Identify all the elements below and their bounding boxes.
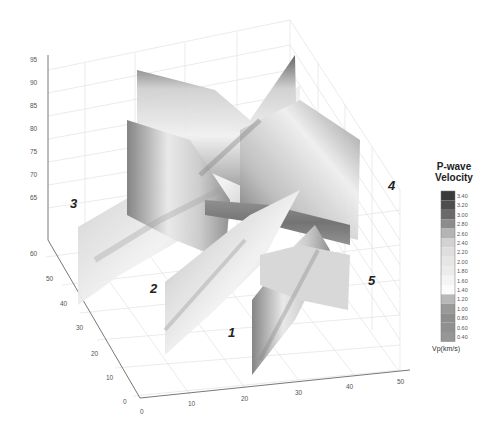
- x-axis-line: [140, 370, 410, 398]
- svg-text:75: 75: [30, 148, 38, 155]
- svg-text:30: 30: [76, 324, 84, 331]
- svg-text:60: 60: [30, 250, 38, 257]
- colorbar-title-line2: Velocity: [428, 172, 480, 183]
- section-label-4: 4: [387, 178, 396, 193]
- svg-text:40: 40: [60, 300, 68, 307]
- section-label-3: 3: [70, 196, 78, 211]
- cb-tick: 2.40: [457, 240, 468, 246]
- cb-tick: 0.80: [457, 315, 468, 321]
- z-axis-ticks: 95 90 85 80 75 70 65: [30, 56, 38, 201]
- svg-text:20: 20: [91, 350, 99, 357]
- svg-text:0: 0: [123, 398, 127, 405]
- svg-text:95: 95: [30, 56, 38, 63]
- cb-tick: 3.20: [457, 202, 468, 208]
- colorbar-unit-label: Vp(km/s): [432, 345, 460, 352]
- section-label-1: 1: [228, 325, 235, 340]
- svg-text:85: 85: [30, 102, 38, 109]
- cb-tick: 1.40: [457, 287, 468, 293]
- fence-diagram-plot: 95 90 85 80 75 70 65 60 50 40 30 20 10 0…: [0, 0, 493, 430]
- svg-text:90: 90: [30, 79, 38, 86]
- svg-text:0: 0: [140, 408, 144, 415]
- colorbar: [441, 191, 455, 341]
- colorbar-title: P-wave Velocity: [428, 161, 480, 183]
- cb-tick: 2.80: [457, 221, 468, 227]
- x-axis-ticks: 0 10 20 30 40 50: [140, 378, 405, 415]
- svg-text:20: 20: [241, 395, 249, 402]
- section-label-2: 2: [149, 281, 158, 296]
- cb-tick: 1.60: [457, 278, 468, 284]
- cb-tick: 1.00: [457, 306, 468, 312]
- section-label-5: 5: [368, 273, 376, 288]
- colorbar-title-line1: P-wave: [428, 161, 480, 172]
- svg-text:10: 10: [106, 374, 114, 381]
- svg-text:40: 40: [346, 383, 354, 390]
- cb-tick: 2.60: [457, 231, 468, 237]
- cb-tick: 3.00: [457, 212, 468, 218]
- cb-tick: 1.20: [457, 296, 468, 302]
- svg-text:50: 50: [397, 378, 405, 385]
- svg-text:65: 65: [30, 194, 38, 201]
- cb-tick: 2.20: [457, 249, 468, 255]
- cb-tick: 1.80: [457, 268, 468, 274]
- svg-text:30: 30: [295, 389, 303, 396]
- svg-text:70: 70: [30, 171, 38, 178]
- svg-text:50: 50: [46, 275, 54, 282]
- cb-tick: 3.40: [457, 193, 468, 199]
- cb-tick: 2.00: [457, 259, 468, 265]
- svg-text:80: 80: [30, 125, 38, 132]
- cb-tick: 0.60: [457, 325, 468, 331]
- cb-tick: 0.40: [457, 334, 468, 340]
- svg-text:10: 10: [188, 400, 196, 407]
